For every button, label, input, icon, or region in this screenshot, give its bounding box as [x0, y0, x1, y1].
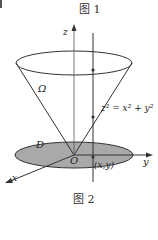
z-axis-label: z: [63, 27, 68, 37]
x-axis-label: x: [12, 173, 17, 183]
region-d-label: D: [36, 139, 44, 150]
origin-label: O: [70, 155, 78, 166]
point-xy-label: (x,y): [94, 160, 114, 170]
surface-equation-label: z² = x² + y²: [101, 103, 153, 113]
cone-left-side: [16, 63, 74, 155]
omega-label: Ω: [38, 83, 46, 94]
point-xy: [91, 155, 94, 158]
point-top-rim: [91, 68, 94, 71]
figure-2-caption: 图 2: [73, 190, 95, 205]
point-cone-surface: [91, 115, 94, 118]
z-axis-arrow: [72, 24, 77, 31]
y-axis-label: y: [143, 156, 149, 167]
